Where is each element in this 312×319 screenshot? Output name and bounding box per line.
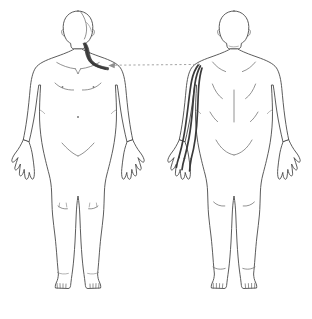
body-chart-svg bbox=[0, 0, 312, 319]
anterior-nipple-left bbox=[62, 86, 64, 88]
body-chart-canvas bbox=[0, 0, 312, 319]
anterior-nipple-right bbox=[93, 86, 95, 88]
anterior-navel bbox=[77, 116, 79, 118]
